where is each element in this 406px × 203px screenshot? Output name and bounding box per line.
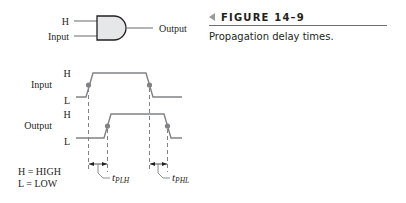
gate-output-label: Output [159,23,187,34]
tphl-label: tPHL [172,171,189,185]
input-waveform [76,73,182,97]
figure-pointer-icon [209,13,215,21]
tplh-label: tPLH [112,171,130,185]
figure-number-row: FIGURE 14–9 [209,10,397,24]
signal-labels: Input H L Output H L [24,68,70,147]
tplh-leader-line [98,164,110,178]
output-high-label: H [63,109,70,120]
legend-low: L = LOW [18,178,58,189]
output-rise-midpoint-dot [105,123,110,128]
tphl-right-arrow-icon [162,162,167,166]
output-fall-midpoint-dot [165,123,170,128]
tphl-left-arrow-icon [150,162,155,166]
input-signal-label: Input [31,79,52,90]
tphl-leader-line [158,164,170,178]
tplh-left-arrow-icon [89,162,94,166]
output-signal-label: Output [24,120,52,131]
gate-input-label: Input [48,31,69,42]
legend-high: H = HIGH [18,166,61,177]
tphl-dimension: tPHL [150,162,189,185]
input-fall-midpoint-dot [147,82,152,87]
gate-input-h-label: H [62,16,69,27]
input-rise-midpoint-dot [86,82,91,87]
reference-lines [89,88,168,172]
and-gate-symbol: H Input Output [48,16,187,42]
output-low-label: L [64,136,70,147]
input-high-label: H [63,68,70,79]
input-low-label: L [64,95,70,106]
figure-caption-block: FIGURE 14–9 Propagation delay times. [209,10,397,42]
tplh-right-arrow-icon [102,162,107,166]
tplh-dimension: tPLH [89,162,130,185]
and-gate-body [97,16,126,40]
figure-caption: Propagation delay times. [209,31,397,42]
figure-divider [209,25,387,26]
figure-number: FIGURE 14–9 [221,12,305,23]
